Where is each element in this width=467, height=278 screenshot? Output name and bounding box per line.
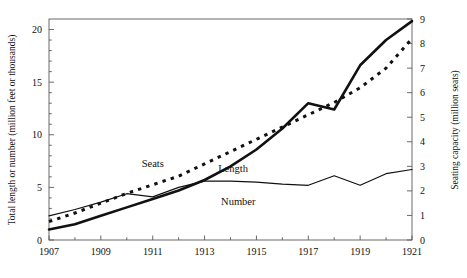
x-tick-label: 1911 <box>143 246 163 257</box>
y-tick-label: 10 <box>32 129 42 140</box>
series-annotation-seats: Seats <box>142 158 164 169</box>
series-annotation-number: Number <box>221 196 256 207</box>
y2-tick-label: 0 <box>420 235 425 246</box>
x-tick-label: 1913 <box>195 246 215 257</box>
chart-background <box>0 0 467 278</box>
y2-tick-label: 6 <box>420 87 425 98</box>
y2-tick-label: 7 <box>420 63 425 74</box>
y-tick-label: 20 <box>32 24 42 35</box>
y2-tick-label: 8 <box>420 38 425 49</box>
y2-tick-label: 3 <box>420 161 425 172</box>
y2-axis-title: Seating capacity (million seats) <box>450 70 461 190</box>
y2-tick-label: 1 <box>420 210 425 221</box>
y2-tick-label: 5 <box>420 112 425 123</box>
series-annotation-length: Length <box>218 163 248 174</box>
y2-tick-label: 9 <box>420 14 425 25</box>
x-tick-label: 1921 <box>402 246 422 257</box>
x-tick-label: 1909 <box>91 246 111 257</box>
y2-tick-label: 2 <box>420 185 425 196</box>
x-tick-label: 1915 <box>246 246 266 257</box>
x-tick-label: 1919 <box>350 246 370 257</box>
x-tick-label: 1907 <box>39 246 59 257</box>
chart-figure: 19071909191119131915191719191921 0510152… <box>0 0 467 278</box>
y-tick-label: 0 <box>37 235 42 246</box>
y-tick-label: 5 <box>37 182 42 193</box>
y-axis-title: Total length or number (million feet or … <box>7 35 18 226</box>
y-tick-label: 15 <box>32 77 42 88</box>
y2-tick-label: 4 <box>420 136 425 147</box>
x-tick-label: 1917 <box>298 246 318 257</box>
